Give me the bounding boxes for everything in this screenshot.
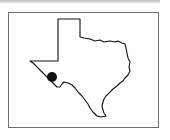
location-marker — [47, 72, 57, 82]
texas-outline — [30, 19, 130, 117]
texas-map — [0, 0, 170, 140]
